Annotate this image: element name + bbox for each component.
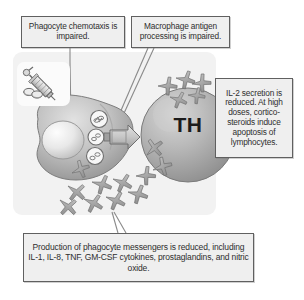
t-helper-cell-label: TH [165, 113, 211, 137]
callout-phagocyte-messengers: Production of phagocyte messengers is re… [23, 233, 254, 282]
callout-phagocyte-chemotaxis: Phagocyte chemotaxis is impaired. [21, 16, 125, 48]
callout-macrophage-antigen: Macrophage antigen processing is impaire… [131, 16, 230, 48]
callout-phagocyte-chemotaxis-text: Phagocyte chemotaxis is impaired. [25, 22, 121, 42]
callout-il2-secretion-text: IL-2 secretion is reduced. At high doses… [219, 89, 289, 148]
drug-icon-tile [17, 62, 70, 106]
callout-macrophage-antigen-text: Macrophage antigen processing is impaire… [135, 22, 226, 42]
syringe-and-pills-icon [17, 62, 70, 106]
macrophage-nucleus [42, 121, 84, 159]
immunology-figure: TH Phagocyte chemotaxis is impaired. Mac… [0, 0, 304, 300]
callout-il2-secretion: IL-2 secretion is reduced. At high doses… [215, 78, 293, 158]
callout-phagocyte-messengers-text: Production of phagocyte messengers is re… [27, 242, 250, 272]
